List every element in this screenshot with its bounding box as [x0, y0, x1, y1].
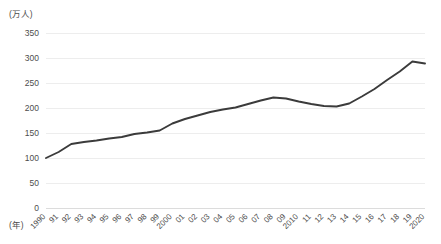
x-axis-tick-label: 18 — [388, 212, 401, 225]
x-axis-tick-label: 92 — [60, 212, 73, 225]
y-axis-tick-label: 300 — [25, 53, 39, 63]
y-axis-tick-label: 0 — [34, 203, 39, 213]
y-axis-unit-label: (万人) — [9, 9, 33, 19]
y-axis-tick-label: 350 — [25, 28, 39, 38]
x-axis-tick-label: 95 — [98, 212, 111, 225]
x-axis-tick-label: 97 — [123, 212, 136, 225]
y-axis-tick-labels: 050100150200250300350 — [25, 28, 39, 213]
chart-canvas: 050100150200250300350 199091929394959697… — [0, 0, 441, 244]
x-axis-tick-label: 16 — [363, 212, 376, 225]
x-axis-tick-label: 98 — [136, 212, 149, 225]
data-series-line — [46, 62, 425, 159]
y-axis-tick-label: 200 — [25, 103, 39, 113]
x-axis-tick-label: 12 — [313, 212, 326, 225]
x-axis-tick-label: 01 — [174, 212, 187, 225]
x-axis-tick-label: 1990 — [28, 212, 47, 231]
y-axis-tick-label: 250 — [25, 78, 39, 88]
gridlines — [46, 33, 425, 208]
x-axis-tick-label: 06 — [237, 212, 250, 225]
x-axis-tick-label: 04 — [212, 212, 225, 225]
x-axis-tick-label: 08 — [262, 212, 275, 225]
x-axis-tick-label: 94 — [85, 212, 98, 225]
x-axis-tick-label: 2020 — [407, 212, 426, 231]
line-chart: 050100150200250300350 199091929394959697… — [0, 0, 441, 244]
x-axis-tick-label: 15 — [351, 212, 364, 225]
y-axis-tick-label: 100 — [25, 153, 39, 163]
x-axis-tick-labels: 1990919293949596979899200001020304050607… — [28, 212, 426, 231]
x-axis-tick-label: 02 — [186, 212, 199, 225]
x-axis-tick-label: 2010 — [281, 212, 300, 231]
x-axis-tick-label: 03 — [199, 212, 212, 225]
x-axis-tick-label: 13 — [325, 212, 338, 225]
x-axis-tick-label: 11 — [300, 212, 313, 225]
x-axis-tick-label: 05 — [224, 212, 237, 225]
x-axis-tick-label: 14 — [338, 212, 351, 225]
x-axis-tick-label: 17 — [376, 212, 389, 225]
x-axis-tick-label: 96 — [111, 212, 124, 225]
y-axis-tick-label: 50 — [30, 178, 40, 188]
y-axis-tick-label: 150 — [25, 128, 39, 138]
x-axis-year-label: (年) — [9, 220, 24, 230]
x-axis-tick-label: 93 — [73, 212, 86, 225]
x-axis-tick-label: 07 — [250, 212, 263, 225]
x-axis-tick-label: 91 — [47, 212, 60, 225]
x-axis-tick-label: 2000 — [155, 212, 174, 231]
